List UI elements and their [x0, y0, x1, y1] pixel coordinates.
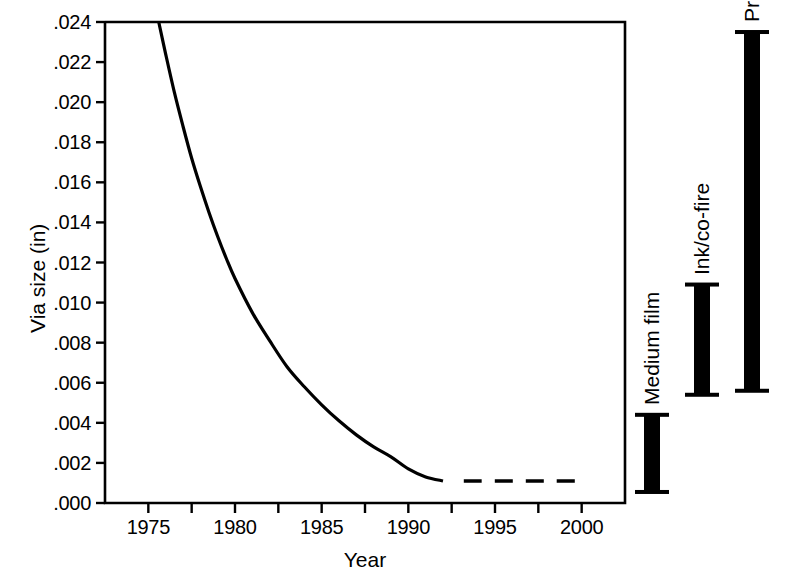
plot-canvas [0, 0, 790, 587]
y-tick-label: .020 [53, 92, 91, 112]
y-tick-label: .008 [53, 333, 91, 353]
range-bar-label-ink-co-fire: Ink/co-fire [690, 182, 714, 274]
y-tick-label: .024 [53, 12, 91, 32]
figure-background [0, 0, 790, 587]
y-tick-label: .018 [53, 132, 91, 152]
y-tick-label: .016 [53, 172, 91, 192]
y-tick-label: .006 [53, 373, 91, 393]
via-size-trend-figure: .024.022.020.018.016.014.012.010.008.006… [0, 0, 790, 587]
x-axis-title: Year [265, 548, 465, 572]
range-bar-cap-top-ink-co-fire [685, 283, 719, 287]
x-tick-label: 1985 [277, 517, 367, 537]
y-tick-label: .004 [53, 413, 91, 433]
range-bar-label-medium-film: Medium film [640, 292, 664, 405]
range-bar-body-medium-film [644, 415, 660, 492]
y-tick-label: .012 [53, 253, 91, 273]
range-bar-body-ink-co-fire [694, 285, 710, 395]
y-tick-label: .010 [53, 293, 91, 313]
x-tick-label: 2000 [537, 517, 627, 537]
x-tick-label: 1995 [450, 517, 540, 537]
x-tick-label: 1980 [190, 517, 280, 537]
x-tick-label: 1975 [103, 517, 193, 537]
range-bar-label-print-etch: Print/etch [740, 0, 764, 22]
x-tick-label: 1990 [363, 517, 453, 537]
y-tick-label: .002 [53, 453, 91, 473]
range-bar-cap-bottom-medium-film [635, 490, 669, 494]
range-bar-cap-bottom-print-etch [735, 389, 769, 393]
range-bar-body-print-etch [744, 32, 760, 391]
y-tick-label: .014 [53, 212, 91, 232]
range-bar-cap-top-print-etch [735, 30, 769, 34]
y-tick-label: .000 [53, 493, 91, 513]
range-bar-cap-top-medium-film [635, 413, 669, 417]
y-tick-label: .022 [53, 52, 91, 72]
y-axis-title: Via size (in) [26, 223, 50, 332]
range-bar-cap-bottom-ink-co-fire [685, 393, 719, 397]
